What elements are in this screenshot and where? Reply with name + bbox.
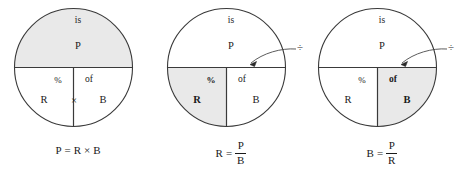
fraction-numerator: P: [387, 140, 397, 153]
formula-factor-1: R: [74, 145, 81, 156]
divide-operator-callout: ÷: [297, 42, 303, 53]
circle-diagram-divide-base: is P % of R B ÷: [304, 0, 460, 140]
formula-left-term: P: [55, 145, 61, 156]
circle-graphic: [0, 0, 156, 140]
formula-multiply: P = R × B: [0, 145, 156, 156]
circle-graphic: [153, 0, 309, 140]
fraction-denominator: B: [235, 154, 246, 167]
fraction-denominator: R: [386, 154, 397, 167]
callout-arrow-curve: [251, 49, 296, 63]
formula-fraction: P R: [386, 140, 397, 166]
circle-diagram-divide-rate: is P % of R B ÷: [153, 0, 309, 140]
formula-equals: =: [65, 145, 71, 156]
fraction-numerator: P: [236, 140, 246, 153]
shaded-region-top-half: [15, 8, 133, 67]
diagram-unit-divide-base: is P % of R B ÷ B = P R: [304, 0, 460, 175]
circle-diagram-multiply: is P % of R × B: [0, 0, 156, 140]
percentage-formula-diagram: is P % of R × B P = R × B: [0, 0, 467, 175]
formula-operator: ×: [84, 145, 90, 156]
shaded-region-bottom-right-quarter: [378, 68, 437, 127]
circle-graphic: [304, 0, 460, 140]
formula-divide-base: B = P R: [304, 140, 460, 166]
divide-operator-callout: ÷: [448, 42, 454, 53]
shaded-region-bottom-left-quarter: [168, 68, 227, 127]
callout-arrow-head: [250, 62, 257, 67]
callout-arrow-curve: [402, 49, 447, 63]
diagram-unit-multiply: is P % of R × B P = R × B: [0, 0, 156, 175]
formula-fraction: P B: [235, 140, 246, 166]
formula-left-term: B: [367, 148, 374, 159]
formula-equals: =: [226, 148, 232, 159]
formula-divide-rate: R = P B: [153, 140, 309, 166]
formula-factor-2: B: [93, 145, 100, 156]
formula-left-term: R: [216, 148, 223, 159]
callout-arrow-head: [401, 62, 408, 67]
formula-equals: =: [377, 148, 383, 159]
diagram-unit-divide-rate: is P % of R B ÷ R = P B: [153, 0, 309, 175]
